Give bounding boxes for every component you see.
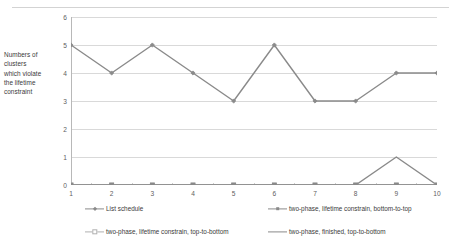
x-tick-label: 2 [110,190,114,197]
x-tick-label: 6 [272,190,276,197]
legend-open-square-marker-icon [92,229,97,234]
line-chart: Numbers of clusters which violate the li… [0,0,453,250]
y-axis-title-line: Numbers of [4,50,56,59]
legend-item-label: two-phase, lifetime constrain, top-to-bo… [106,228,229,235]
chart-legend: List schedule two-phase, lifetime constr… [0,200,453,248]
legend-item-label: two-phase, lifetime constrain, bottom-to… [289,205,412,212]
legend-item-two-phase-finished-top-to-bottom[interactable]: two-phase, finished, top-to-bottom [268,227,386,236]
y-tick-label: 0 [63,182,67,189]
x-tick-label: 1 [69,190,73,197]
y-tick-label: 5 [63,42,67,49]
gridlines [71,17,437,185]
x-tick-label: 7 [313,190,317,197]
legend-item-list-schedule[interactable]: List schedule [85,204,143,213]
legend-item-two-phase-lifetime-bottom-to-top[interactable]: two-phase, lifetime constrain, bottom-to… [268,204,412,213]
legend-key-swatch [268,204,287,213]
x-tick-label: 4 [191,190,195,197]
top-divider-rule [12,7,449,8]
x-tick-label: 10 [433,190,440,197]
legend-item-label: two-phase, finished, top-to-bottom [289,228,386,235]
y-tick-label: 2 [63,126,67,133]
y-tick-label: 3 [63,98,67,105]
y-axis-title-line: constraint [4,87,56,96]
legend-square-marker-icon [276,207,280,211]
data-series-layer [71,43,437,185]
y-tick-label: 1 [63,154,67,161]
legend-line-icon [268,231,287,232]
data-series [71,157,437,185]
legend-diamond-marker-icon [92,206,97,211]
legend-item-label: List schedule [106,205,143,212]
plot-area: 0123456 12345678910 [71,17,437,185]
x-tick-label: 3 [150,190,154,197]
y-axis-title-line: clusters [4,59,56,68]
y-axis-title: Numbers of clusters which violate the li… [4,50,56,96]
y-axis-title-line: which violate [4,69,56,78]
y-tick-label: 4 [63,70,67,77]
y-tick-label: 6 [63,14,67,21]
x-tick-label: 8 [354,190,358,197]
legend-key-swatch [85,227,104,236]
x-tick-label: 9 [394,190,398,197]
legend-key-swatch [268,227,287,236]
legend-item-two-phase-lifetime-top-to-bottom[interactable]: two-phase, lifetime constrain, top-to-bo… [85,227,229,236]
plot-svg [71,17,437,185]
legend-key-swatch [85,204,104,213]
y-axis-title-line: the lifetime [4,78,56,87]
x-tick-label: 5 [232,190,236,197]
